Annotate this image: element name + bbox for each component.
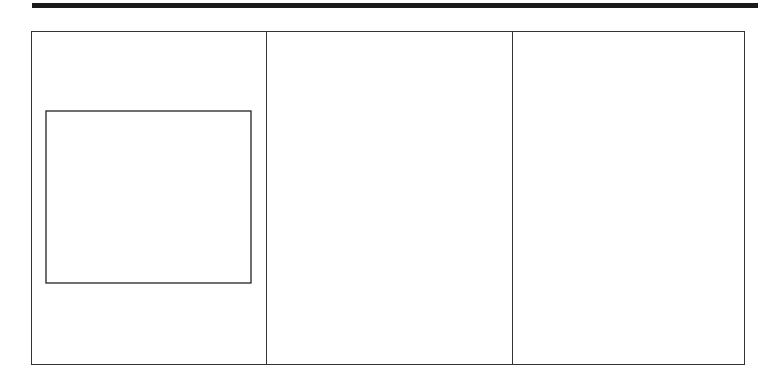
figures-drawing bbox=[0, 0, 770, 386]
fig-1-grid bbox=[46, 111, 251, 283]
